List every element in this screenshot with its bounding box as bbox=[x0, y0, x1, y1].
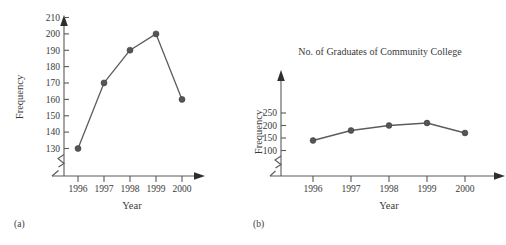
y-tick-label-a-5: 180 bbox=[46, 62, 61, 72]
x-axis-title-b: Year bbox=[379, 200, 399, 211]
y-tick-label-b-3: 250 bbox=[263, 108, 278, 118]
x-tick-label-a-2: 1998 bbox=[121, 184, 140, 194]
axis-break-connector-b bbox=[270, 171, 276, 176]
x-tick-label-b-3: 1999 bbox=[418, 184, 437, 194]
y-tick-label-b-0: 100 bbox=[263, 146, 278, 156]
figure-container: 130 140 150 160 170 180 190 200 210 1996… bbox=[0, 0, 506, 245]
data-point-a-1997 bbox=[101, 80, 107, 86]
data-point-a-1999 bbox=[153, 31, 159, 37]
data-point-a-2000 bbox=[179, 96, 185, 102]
x-tick-label-a-4: 2000 bbox=[173, 184, 192, 194]
x-axis-arrow-b bbox=[494, 172, 505, 179]
data-point-a-1998 bbox=[127, 47, 133, 53]
x-tick-label-b-0: 1996 bbox=[304, 184, 323, 194]
y-tick-label-a-3: 160 bbox=[46, 95, 61, 105]
y-axis-title-b: Frequency bbox=[253, 109, 264, 154]
panel-label-a: (a) bbox=[14, 219, 25, 230]
axis-break-connector-a bbox=[52, 171, 59, 177]
chart-panel-a: 130 140 150 160 170 180 190 200 210 1996… bbox=[0, 0, 253, 245]
data-point-b-1997 bbox=[348, 128, 354, 134]
y-tick-label-a-6: 190 bbox=[46, 46, 61, 56]
y-tick-label-b-1: 150 bbox=[263, 133, 278, 143]
y-axis-break-a bbox=[58, 155, 64, 168]
x-ticks-a bbox=[78, 176, 182, 182]
y-axis-title-a: Frequency bbox=[14, 74, 25, 119]
y-axis-arrow-a bbox=[60, 15, 68, 26]
panel-label-b: (b) bbox=[253, 219, 264, 230]
y-tick-label-a-0: 130 bbox=[46, 144, 61, 154]
x-tick-label-b-4: 2000 bbox=[456, 184, 475, 194]
x-axis-arrow-a bbox=[194, 172, 205, 179]
chart-title-b: No. of Graduates of Community College bbox=[298, 46, 462, 57]
data-point-b-1996 bbox=[310, 138, 316, 144]
y-tick-label-a-7: 200 bbox=[46, 29, 61, 39]
y-tick-label-a-1: 140 bbox=[46, 127, 61, 137]
y-tick-label-a-4: 170 bbox=[46, 78, 61, 88]
x-tick-label-a-0: 1996 bbox=[69, 184, 88, 194]
y-axis-arrow-b bbox=[277, 70, 285, 81]
series-markers-b bbox=[310, 120, 468, 143]
y-axis-break-b bbox=[275, 156, 281, 168]
y-ticks-a bbox=[64, 18, 69, 149]
chart-panel-b: No. of Graduates of Community College 10… bbox=[253, 0, 506, 245]
y-tick-label-a-2: 150 bbox=[46, 111, 61, 121]
y-tick-label-a-8: 210 bbox=[46, 13, 61, 23]
data-point-b-2000 bbox=[462, 130, 468, 136]
data-point-b-1999 bbox=[424, 120, 430, 126]
series-markers-a bbox=[75, 31, 185, 152]
x-tick-label-b-2: 1998 bbox=[380, 184, 399, 194]
data-point-a-1996 bbox=[75, 146, 81, 152]
data-point-b-1998 bbox=[386, 123, 392, 129]
x-tick-label-b-1: 1997 bbox=[342, 184, 361, 194]
y-ticks-b bbox=[281, 113, 286, 151]
x-tick-label-a-1: 1997 bbox=[95, 184, 114, 194]
y-tick-label-b-2: 200 bbox=[263, 121, 278, 131]
x-ticks-b bbox=[313, 176, 465, 182]
x-axis-title-a: Year bbox=[122, 200, 142, 211]
x-tick-label-a-3: 1999 bbox=[147, 184, 166, 194]
